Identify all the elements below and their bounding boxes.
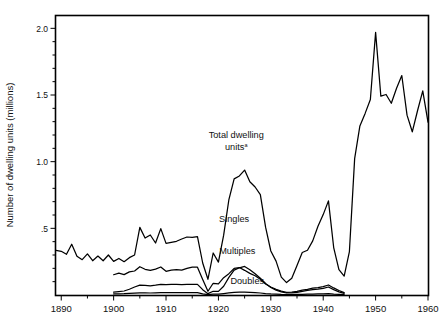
x-axis-tick-label: 1890 xyxy=(51,303,72,314)
annotation-total-dwelling-units-line2: unitsa xyxy=(225,142,248,152)
series-line-singles xyxy=(114,267,345,293)
x-axis-tick-label: 1940 xyxy=(313,303,334,314)
annotation-total-dwelling-units-line1: Total dwelling xyxy=(209,130,264,140)
x-axis-tick-label: 1910 xyxy=(155,303,176,314)
chart-figure: Number of dwelling units (millions) 2.01… xyxy=(0,0,445,332)
y-axis-tick-label: 1.5 xyxy=(36,90,48,100)
dwelling-units-line-chart: Number of dwelling units (millions) 2.01… xyxy=(0,0,445,332)
x-axis-tick-label: 1920 xyxy=(208,303,229,314)
y-axis-tick-labels: 2.01.51.0.5 xyxy=(36,24,48,234)
series-line-total-dwelling-units xyxy=(56,32,428,282)
annotation-footnote-marker: a xyxy=(244,142,248,148)
annotation-singles: Singles xyxy=(219,214,250,224)
x-axis-tick-label: 1900 xyxy=(103,303,124,314)
y-axis-tick-label: 2.0 xyxy=(36,24,48,34)
y-axis-tick-label: .5 xyxy=(41,224,48,234)
y-axis-tick-label: 1.0 xyxy=(36,157,48,167)
series-line-doubles xyxy=(114,292,345,294)
y-axis-title-label: Number of dwelling units (millions) xyxy=(4,83,15,228)
series-annotations: Total dwellingunitsaSinglesMultiplesDoub… xyxy=(209,130,265,286)
annotation-multiples: Multiples xyxy=(219,246,256,256)
x-axis-tick-labels: 18901900191019201930194019501960 xyxy=(51,303,439,314)
y-axis-title: Number of dwelling units (millions) xyxy=(4,83,15,228)
x-axis-tick-label: 1930 xyxy=(260,303,281,314)
annotation-doubles: Doubles xyxy=(230,276,264,286)
x-axis-tick-label: 1960 xyxy=(417,303,438,314)
x-axis-tick-label: 1950 xyxy=(365,303,386,314)
